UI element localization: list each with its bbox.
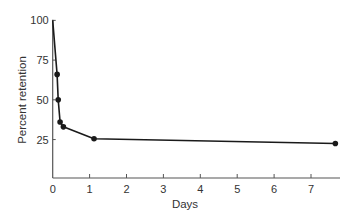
x-tick-label: 4 <box>197 183 203 195</box>
y-tick-label: 50 <box>36 94 48 106</box>
x-tick-label: 2 <box>123 183 129 195</box>
y-axis-title: Percent retention <box>16 56 28 144</box>
y-tick-label: 25 <box>36 134 48 146</box>
y-tick-label: 75 <box>36 54 48 66</box>
x-axis: 01234567 <box>50 174 340 195</box>
x-tick-label: 0 <box>50 183 56 195</box>
x-tick-label: 1 <box>87 183 93 195</box>
data-point-marker <box>57 119 63 125</box>
y-axis: 255075100 <box>30 14 55 178</box>
y-tick-label: 100 <box>30 14 48 26</box>
data-point-marker <box>91 136 97 142</box>
x-tick-label: 3 <box>160 183 166 195</box>
data-point-marker <box>61 124 67 130</box>
data-point-marker <box>55 97 61 103</box>
x-tick-label: 6 <box>271 183 277 195</box>
data-point-marker <box>54 72 60 78</box>
data-point-marker <box>333 141 339 147</box>
x-tick-label: 5 <box>234 183 240 195</box>
x-axis-title: Days <box>172 198 198 210</box>
data-series <box>53 20 338 146</box>
series-line <box>53 20 336 143</box>
retention-chart: 255075100 01234567 Days Percent retentio… <box>0 0 361 224</box>
x-tick-label: 7 <box>308 183 314 195</box>
